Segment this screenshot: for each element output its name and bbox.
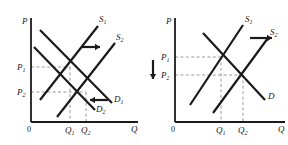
supply-demand-figure: S1S2D1D2PQ0P1P2Q1Q2S1S2DPQ0P1P2Q1Q2 (0, 0, 288, 145)
right-panel-curve-S1 (190, 25, 243, 105)
supply-shift-right-arrow (250, 35, 272, 41)
right-panel-curve-label-S2: S2 (270, 27, 278, 38)
right-panel-curve-label-D: D (267, 91, 275, 101)
left-panel-curve-label-S2: S2 (116, 32, 124, 43)
right-panel-price-tick-2: P2 (160, 70, 170, 81)
left-panel-price-tick-1: P1 (16, 62, 26, 73)
right-panel-quantity-tick-2: Q2 (238, 125, 248, 136)
right-panel-y-axis-label: P (165, 16, 172, 26)
right-panel-curve-label-S1: S1 (245, 14, 253, 25)
price-fall-down-arrow (150, 60, 156, 79)
right-panel-curve-D (203, 33, 265, 100)
left-panel-x-axis-label: Q (131, 124, 138, 134)
left-panel-curve-label-D1: D1 (113, 94, 124, 105)
figure-container: S1S2D1D2PQ0P1P2Q1Q2S1S2DPQ0P1P2Q1Q2 (0, 0, 288, 145)
right-panel-origin-label: 0 (171, 125, 175, 134)
right-panel-price-tick-1: P1 (160, 52, 170, 63)
left-panel-quantity-tick-2: Q2 (81, 125, 91, 136)
left-panel-origin-label: 0 (27, 125, 31, 134)
left-panel-curve-label-S1: S1 (99, 14, 107, 25)
right-panel-quantity-tick-1: Q1 (216, 125, 226, 136)
right-panel-x-axis-label: Q (278, 124, 285, 134)
supply-shift-right-arrow (82, 44, 100, 50)
left-panel-price-tick-2: P2 (16, 87, 26, 98)
left-panel-quantity-tick-1: Q1 (65, 125, 75, 136)
left-panel-curve-label-D2: D2 (95, 104, 106, 115)
left-panel-y-axis-label: P (21, 16, 28, 26)
